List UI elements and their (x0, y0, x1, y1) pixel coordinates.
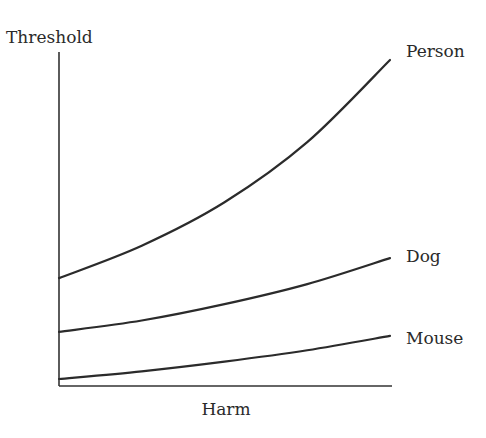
chart: Threshold Harm PersonDogMouse (0, 0, 486, 438)
series-label-mouse: Mouse (406, 328, 463, 348)
y-axis-label: Threshold (6, 27, 93, 47)
series-line-dog (59, 258, 390, 332)
series-layer: PersonDogMouse (59, 41, 465, 379)
series-label-person: Person (406, 41, 465, 61)
series-line-person (59, 60, 390, 278)
series-line-mouse (59, 336, 390, 379)
series-label-dog: Dog (406, 246, 441, 266)
x-axis-label: Harm (201, 399, 250, 419)
